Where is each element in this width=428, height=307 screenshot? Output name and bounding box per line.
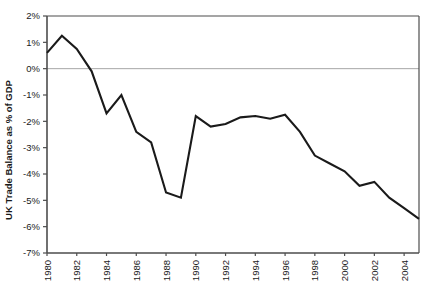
y-axis-title-text: UK Trade Balance as % of GDP	[3, 79, 14, 220]
x-tick-label: 2004	[399, 260, 410, 281]
line-chart: UK Trade Balance as % of GDP 2%1%0%-1%-2…	[0, 0, 428, 307]
x-tick-label: 1992	[220, 260, 231, 281]
x-tick-label: 2000	[339, 260, 350, 281]
x-tick-label: 1982	[71, 260, 82, 281]
y-tick-label: -3%	[23, 142, 40, 153]
y-tick-label: 0%	[26, 63, 40, 74]
chart-container: UK Trade Balance as % of GDP 2%1%0%-1%-2…	[0, 0, 428, 307]
y-axis-title: UK Trade Balance as % of GDP	[3, 79, 14, 220]
x-tick-label: 1998	[309, 260, 320, 281]
y-tick-label: -2%	[23, 116, 40, 127]
x-tick-label: 1984	[101, 260, 112, 281]
chart-background	[0, 0, 428, 307]
x-tick-label: 1980	[42, 260, 53, 281]
y-tick-label: 1%	[26, 37, 40, 48]
y-tick-label: -6%	[23, 221, 40, 232]
x-tick-label: 1986	[131, 260, 142, 281]
y-tick-label: 2%	[26, 10, 40, 21]
x-tick-label: 1994	[250, 260, 261, 281]
y-tick-label: -7%	[23, 247, 40, 258]
y-tick-label: -1%	[23, 89, 40, 100]
x-tick-label: 2002	[369, 260, 380, 281]
x-tick-label: 1996	[280, 260, 291, 281]
y-tick-label: -4%	[23, 168, 40, 179]
y-tick-label: -5%	[23, 195, 40, 206]
x-tick-label: 1990	[190, 260, 201, 281]
x-tick-label: 1988	[161, 260, 172, 281]
